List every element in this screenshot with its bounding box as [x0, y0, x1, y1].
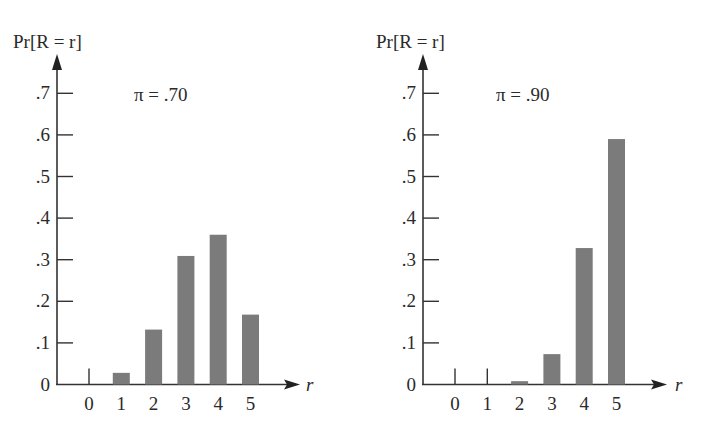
- bar: [543, 354, 560, 384]
- x-tick-label: 3: [547, 393, 557, 414]
- bar: [145, 330, 162, 385]
- x-tick-label: 0: [450, 393, 460, 414]
- y-axis-arrow-icon: [418, 54, 428, 70]
- x-tick-label: 5: [246, 393, 256, 414]
- y-tick-label: .7: [402, 82, 416, 103]
- bar: [242, 315, 259, 385]
- x-tick-label: 4: [579, 393, 589, 414]
- y-tick-label: .2: [402, 290, 416, 311]
- y-ticks: .7.6.5.4.3.2.10: [36, 82, 73, 394]
- y-tick-label: 0: [41, 374, 51, 395]
- y-axis-arrow-icon: [52, 54, 62, 70]
- y-tick-label: .3: [36, 249, 50, 270]
- bar: [608, 139, 625, 384]
- y-axis-label: Pr[R = r]: [376, 31, 445, 52]
- x-ticks: 012345: [84, 393, 255, 414]
- chart-title: π = .70: [134, 84, 188, 105]
- y-tick-label: .7: [36, 82, 50, 103]
- bar: [113, 373, 130, 385]
- y-tick-label: .6: [36, 124, 50, 145]
- y-tick-label: .1: [402, 332, 416, 353]
- bar: [177, 256, 194, 385]
- x-tick-label: 3: [181, 393, 191, 414]
- y-tick-label: .5: [36, 166, 50, 187]
- y-tick-label: .3: [402, 249, 416, 270]
- x-tick-label: 0: [84, 393, 94, 414]
- y-tick-label: 0: [407, 374, 417, 395]
- bars: [89, 235, 259, 385]
- x-tick-label: 2: [149, 393, 159, 414]
- x-tick-label: 4: [213, 393, 223, 414]
- y-tick-label: .2: [36, 290, 50, 311]
- bar: [210, 235, 227, 385]
- chart-pi-070: Pr[R = r] r π = .70 .7.6.5.4.3.2.10 0123…: [0, 0, 356, 437]
- x-tick-label: 1: [483, 393, 493, 414]
- x-tick-label: 2: [515, 393, 525, 414]
- bar: [511, 381, 528, 384]
- x-axis-label: r: [306, 374, 314, 395]
- y-tick-label: .4: [36, 207, 51, 228]
- y-axis-label: Pr[R = r]: [13, 31, 82, 52]
- y-tick-label: .1: [36, 332, 50, 353]
- chart-title: π = .90: [496, 84, 550, 105]
- chart-svg: Pr[R = r] r π = .90 .7.6.5.4.3.2.10 0123…: [356, 0, 712, 437]
- bar: [576, 248, 593, 384]
- x-tick-label: 5: [612, 393, 622, 414]
- x-ticks: 012345: [450, 393, 621, 414]
- y-tick-label: .6: [402, 124, 416, 145]
- chart-svg: Pr[R = r] r π = .70 .7.6.5.4.3.2.10 0123…: [0, 0, 356, 437]
- x-tick-label: 1: [117, 393, 127, 414]
- y-tick-label: .5: [402, 166, 416, 187]
- y-tick-label: .4: [402, 207, 417, 228]
- chart-pi-090: Pr[R = r] r π = .90 .7.6.5.4.3.2.10 0123…: [356, 0, 712, 437]
- y-ticks: .7.6.5.4.3.2.10: [402, 82, 439, 394]
- bars: [455, 139, 625, 384]
- x-axis-label: r: [675, 374, 683, 395]
